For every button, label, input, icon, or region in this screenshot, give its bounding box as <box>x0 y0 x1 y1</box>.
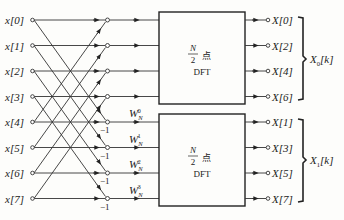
input-label-0: x[0] <box>4 14 24 26</box>
output-label-X5: X[5] <box>271 167 293 179</box>
dft-bottom-numerator: N <box>189 145 197 155</box>
output-wires <box>245 18 270 200</box>
input-label-6: x[6] <box>4 167 24 179</box>
input-label-5: x[5] <box>4 142 24 154</box>
butterfly-nodes <box>106 18 110 201</box>
dft-top-denominator: 2 <box>191 55 196 65</box>
input-label-3: x[3] <box>4 91 24 103</box>
twiddle-2: WN2 <box>129 158 143 173</box>
output-label-X6: X[6] <box>271 91 293 103</box>
twiddle-1: WN1 <box>129 132 143 147</box>
dft-bottom-name: DFT <box>193 169 211 179</box>
dft-top-numerator: N <box>189 43 197 53</box>
output-label-X3: X[3] <box>271 142 293 154</box>
twiddle-3: WN3 <box>129 183 143 198</box>
input-label-7: x[7] <box>4 193 24 205</box>
output-label-X2: X[2] <box>271 40 293 52</box>
input-label-2: x[2] <box>4 65 24 77</box>
input-label-4: x[4] <box>4 116 24 128</box>
minus-one-label-6: −1 <box>100 176 110 186</box>
input-nodes <box>31 18 35 200</box>
minus-one-label-7: −1 <box>100 202 110 212</box>
output-labels: X[0] X[2] X[4] X[6] X[1] X[3] X[5] X[7] <box>271 14 293 205</box>
input-labels: x[0] x[1] x[2] x[3] x[4] x[5] x[6] x[7] <box>4 14 24 205</box>
dft-block-top: N 2 点 DFT <box>159 12 245 104</box>
group-label-X0k: X0[k] <box>309 53 333 67</box>
horizontal-wires <box>34 20 105 199</box>
dft-bottom-denominator: 2 <box>191 157 196 167</box>
group-label-X1k: X1[k] <box>309 154 333 168</box>
output-label-X4: X[4] <box>271 65 293 77</box>
input-label-1: x[1] <box>4 40 24 52</box>
minus-one-label-5: −1 <box>100 151 110 161</box>
dft-top-unit: 点 <box>202 51 211 61</box>
minus-one-label-4: −1 <box>100 125 110 135</box>
output-label-X0: X[0] <box>271 14 293 26</box>
butterfly-diagonals <box>34 20 106 199</box>
dft-bottom-unit: 点 <box>202 153 211 163</box>
twiddle-0: WN0 <box>129 107 143 122</box>
group-brace-top: X0[k] <box>298 17 333 100</box>
fft-butterfly-diagram: x[0] x[1] x[2] x[3] x[4] x[5] x[6] x[7] <box>0 0 344 220</box>
twiddle-labels: WN0 WN1 WN2 WN3 <box>129 107 143 198</box>
dft-block-bottom: N 2 点 DFT <box>159 114 245 206</box>
group-brace-bottom: X1[k] <box>298 119 333 202</box>
output-label-X1: X[1] <box>271 116 293 128</box>
output-label-X7: X[7] <box>271 193 293 205</box>
dft-top-name: DFT <box>193 67 211 77</box>
